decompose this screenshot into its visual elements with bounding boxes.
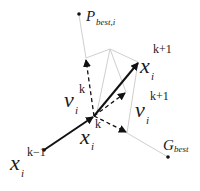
svg-text:i: i	[151, 70, 154, 82]
svg-text:x: x	[139, 53, 150, 78]
svg-text:k+1: k+1	[153, 42, 172, 56]
label-x-prev: x i k−1	[9, 145, 46, 179]
svg-text:G: G	[163, 137, 174, 153]
svg-text:v: v	[64, 87, 74, 112]
svg-text:k−1: k−1	[27, 145, 46, 159]
label-v-curr: v i k	[64, 82, 85, 116]
label-x-next: x i k+1	[139, 42, 172, 82]
pbest-point	[77, 12, 81, 16]
trajectory	[44, 63, 138, 150]
svg-text:x: x	[9, 150, 20, 175]
svg-text:best,i: best,i	[96, 17, 116, 27]
label-v-next: v i k+1	[135, 89, 169, 126]
svg-text:x: x	[79, 124, 90, 149]
guide-lines	[79, 15, 168, 157]
svg-text:i: i	[75, 104, 78, 116]
svg-text:v: v	[135, 97, 145, 122]
label-gbest: G best	[163, 137, 189, 154]
label-x-curr: x i k	[79, 117, 101, 152]
pso-diagram: P best,i G best x i k+1 v i k+1 v i k x …	[0, 0, 200, 191]
label-pbest: P best,i	[85, 8, 116, 27]
gbest-point	[166, 155, 170, 159]
svg-text:k: k	[79, 82, 85, 96]
velocity-vk-arrow	[86, 60, 94, 116]
svg-text:i: i	[91, 140, 94, 152]
svg-text:i: i	[21, 167, 24, 179]
svg-text:best: best	[174, 144, 189, 154]
svg-text:k: k	[95, 117, 101, 131]
curr-to-next-arrow	[94, 63, 138, 116]
svg-text:i: i	[146, 114, 149, 126]
svg-text:k+1: k+1	[150, 89, 169, 103]
svg-text:P: P	[85, 8, 95, 24]
